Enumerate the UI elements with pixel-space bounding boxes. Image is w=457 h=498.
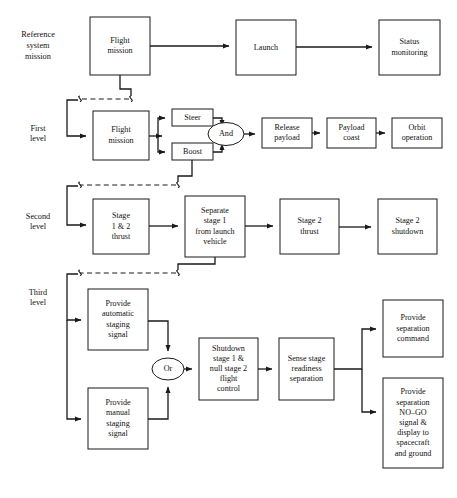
decomp-elbow-3-auto <box>67 274 81 320</box>
box-flight-mission-reference: Flightmission <box>90 17 150 75</box>
decomp-stub-down-2 <box>178 160 192 182</box>
box-stage-2-shutdown: Stage 2shutdown <box>378 199 437 254</box>
arrow-sense-to-nogo <box>362 369 376 412</box>
box-label-provide-separation-command: Provideseparationcommand <box>396 313 429 342</box>
row-label-text-first-level: Firstlevel <box>30 124 47 144</box>
box-sense-stage-readiness-separation: Sense stagereadinessseparation <box>279 338 334 400</box>
row-label-reference-system-mission: Referencesystemmission <box>21 30 55 60</box>
box-label-boost: Boost <box>183 146 203 155</box>
or-gate: Or <box>152 358 184 380</box>
decomp-stub-down-1 <box>120 75 131 96</box>
box-label-sense-stage-readiness-separation: Sense stagereadinessseparation <box>288 354 326 383</box>
box-boost: Boost <box>172 143 213 160</box>
decomp-elbow-2 <box>67 186 86 225</box>
box-shutdown-stage-1-null-stage-2: Shutdownstage 1 &null stage 2flightcontr… <box>199 338 258 400</box>
decomp-elbow-1 <box>67 100 86 136</box>
box-provide-separation-command: Provideseparationcommand <box>383 300 443 357</box>
or-gate-label: Or <box>164 364 173 373</box>
box-label-provide-separation-no-go-signal: ProvideseparationNO–GOsignal &display to… <box>395 387 432 457</box>
box-steer: Steer <box>172 109 213 126</box>
box-label-stage-2-thrust: Stage 2thrust <box>297 216 321 235</box>
arrow-auto-to-or <box>148 321 168 351</box>
box-provide-manual-staging-signal: Providemanualstagingsignal <box>88 388 148 449</box>
box-separate-stage-1: Separatestage 1from launchvehicle <box>185 196 245 257</box>
row-label-second-level: Secondlevel <box>26 212 51 232</box>
arrow-sense-to-separation-command <box>334 329 376 369</box>
break-squiggle-right-3 <box>177 270 180 276</box>
box-flight-mission-first-level: Flightmission <box>93 111 149 160</box>
row-label-text-third-level: Thirdlevel <box>29 288 48 308</box>
row-label-third-level: Thirdlevel <box>29 288 48 308</box>
break-squiggle-right-2 <box>177 182 180 188</box>
boxes-layer: FlightmissionLaunchStatusmonitoringFligh… <box>88 17 443 468</box>
decomp-elbow-3-manual <box>67 320 81 419</box>
box-payload-coast: Payloadcoast <box>327 118 376 148</box>
box-label-stage-2-shutdown: Stage 2shutdown <box>392 216 423 235</box>
break-squiggle-left-1 <box>79 96 82 102</box>
box-status-monitoring: Statusmonitoring <box>379 20 440 75</box>
box-release-payload: Releasepayload <box>262 118 312 148</box>
decomp-stub-down-3 <box>178 257 215 270</box>
and-gate: And <box>208 123 244 146</box>
box-stage-2-thrust: Stage 2thrust <box>280 199 339 254</box>
row-label-first-level: Firstlevel <box>30 124 47 144</box>
box-orbit-operation: Orbitoperation <box>392 118 442 148</box>
functional-flow-diagram: FlightmissionLaunchStatusmonitoringFligh… <box>0 0 457 498</box>
box-label-flight-mission-first-level: Flightmission <box>108 125 133 144</box>
arrow-manual-to-or <box>148 387 168 419</box>
box-provide-automatic-staging-signal: Provideautomaticstagingsignal <box>88 289 148 350</box>
arrow-fanout-to-steer <box>158 118 165 136</box>
box-provide-separation-no-go-signal: ProvideseparationNO–GOsignal &display to… <box>383 378 443 468</box>
row-labels-layer: ReferencesystemmissionFirstlevelSecondle… <box>21 30 55 307</box>
box-label-release-payload: Releasepayload <box>274 123 300 142</box>
flow-diagram-canvas: FlightmissionLaunchStatusmonitoringFligh… <box>0 0 457 498</box>
box-label-steer: Steer <box>184 112 201 121</box>
box-label-stage-1-2-thrust: Stage1 & 2thrust <box>112 211 131 240</box>
and-gate-label: And <box>219 129 233 138</box>
box-launch: Launch <box>236 20 296 75</box>
box-label-flight-mission-reference: Flightmission <box>107 36 132 55</box>
row-label-text-second-level: Secondlevel <box>26 212 51 232</box>
arrow-fanout-to-boost <box>158 136 165 152</box>
box-label-launch: Launch <box>254 42 278 51</box>
row-label-text-reference-system-mission: Referencesystemmission <box>21 30 55 60</box>
box-label-provide-manual-staging-signal: Providemanualstagingsignal <box>105 398 131 438</box>
break-squiggle-right-1 <box>130 96 133 102</box>
box-stage-1-2-thrust: Stage1 & 2thrust <box>93 199 149 254</box>
